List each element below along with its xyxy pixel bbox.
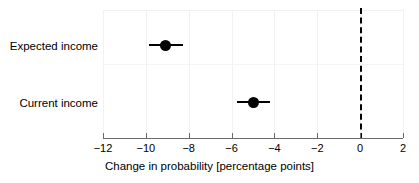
x-tick [317,133,318,138]
x-tick [274,133,275,138]
x-tick-label: −4 [254,142,294,155]
gridline-v [403,10,404,138]
x-axis-title: Change in probability [percentage points… [0,160,419,172]
x-axis-line [103,138,403,139]
gridline-v [317,10,318,138]
x-tick-label: −2 [297,142,337,155]
x-tick [232,133,233,138]
zero-reference-line [360,8,362,139]
plot-frame-top [103,10,403,11]
gridline-v [146,10,147,138]
category-label-current-income: Current income [0,96,98,110]
x-tick [360,133,361,138]
x-tick [189,133,190,138]
coefficient-plot: Expected income Current income −12−10−8−… [0,0,419,183]
gridline-v [189,10,190,138]
x-tick-label: 2 [383,142,419,155]
point-estimate-marker [248,97,259,108]
gridline-v [103,10,104,138]
gridline-v [274,10,275,138]
x-tick [146,133,147,138]
x-tick-label: −12 [83,142,123,155]
x-tick-label: −10 [126,142,166,155]
point-estimate-marker [160,40,171,51]
x-tick-label: −8 [169,142,209,155]
category-label-expected-income: Expected income [0,39,98,53]
plot-area [103,10,403,138]
x-tick [403,133,404,138]
horizontal-gridline [103,64,403,65]
x-tick [103,133,104,138]
x-tick-label: −6 [212,142,252,155]
gridline-v [232,10,233,138]
x-tick-label: 0 [340,142,380,155]
